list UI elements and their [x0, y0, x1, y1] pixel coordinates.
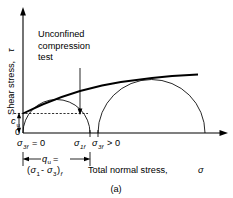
mohr-circle-confined	[98, 79, 205, 133]
y-axis-label-group: Shear stress, τ	[6, 48, 16, 115]
annotation-line-2: compression	[38, 41, 90, 51]
failure-envelope-curve	[23, 75, 198, 114]
qu-sigma1-subscript: 1	[37, 170, 41, 177]
annotation-line-1: Unconfined	[38, 29, 84, 39]
x-axis-label-group: Total normal stress, σ	[88, 165, 204, 175]
sigma3f-positive-subscript: 3f	[98, 143, 104, 150]
figure-caption: (a)	[110, 184, 121, 194]
y-axis-label-text: Shear stress,	[6, 61, 16, 115]
x-axis-arrowhead	[220, 130, 229, 136]
qu-arrow-right	[84, 157, 91, 161]
sigma1f-subscript: 1f	[80, 143, 86, 150]
qu-expression-group: ( σ 1 - σ 3 ) f	[27, 165, 64, 177]
label-sigma3f-zero-group: σ 3f = 0	[17, 138, 45, 150]
x-axis-label-symbol: σ	[198, 165, 204, 175]
sigma3f-zero-relation: = 0	[32, 138, 45, 148]
annotation-line-3: test	[38, 52, 53, 62]
qu-arrow-left	[23, 157, 30, 161]
label-sigma3f-positive-group: σ 3f > 0	[92, 138, 120, 150]
figure-canvas: c u 0 Unconfined compression test Shear …	[0, 0, 233, 198]
qu-subscript: u	[48, 158, 52, 165]
cu-symbol: c	[11, 116, 16, 126]
unconfined-compression-mohr-circle-figure: c u 0 Unconfined compression test Shear …	[0, 0, 233, 198]
label-sigma1f-group: σ 1f	[74, 138, 86, 150]
y-axis-label-symbol: τ	[6, 48, 16, 52]
y-axis-arrowhead	[20, 7, 26, 16]
qu-minus: -	[41, 165, 44, 175]
sigma3f-positive-relation: > 0	[107, 138, 120, 148]
sigma3f-zero-subscript: 3f	[23, 143, 29, 150]
annotation-leader-arrowhead	[78, 109, 83, 116]
origin-label: 0	[15, 127, 20, 137]
qu-expression-subscript: f	[61, 170, 64, 177]
qu-equals: =	[53, 154, 58, 164]
x-axis-label-text: Total normal stress,	[88, 165, 168, 175]
cu-arrow-up	[17, 113, 21, 119]
